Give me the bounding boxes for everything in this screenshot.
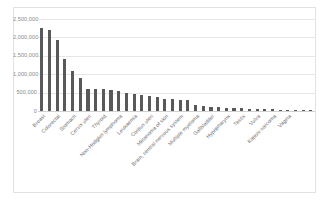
bar[interactable] — [40, 28, 43, 111]
bar[interactable] — [302, 110, 305, 111]
bar[interactable] — [263, 109, 266, 111]
bar[interactable] — [79, 78, 82, 111]
x-axis-tick-label: Testis — [232, 113, 246, 127]
bar[interactable] — [71, 71, 74, 111]
bar[interactable] — [140, 95, 143, 111]
bar[interactable] — [109, 90, 112, 111]
bar-slot — [192, 19, 200, 111]
bar-slot — [46, 19, 54, 111]
bar[interactable] — [125, 93, 128, 111]
bar[interactable] — [133, 94, 136, 111]
bar-slot — [169, 19, 177, 111]
bar[interactable] — [294, 110, 297, 111]
bar-slot — [269, 19, 277, 111]
bar-slot — [199, 19, 207, 111]
bar[interactable] — [163, 99, 166, 111]
x-axis-tick-label: Kaposi sarcoma — [246, 113, 277, 144]
bar-slot — [276, 19, 284, 111]
bar-slot — [238, 19, 246, 111]
bar-slot — [223, 19, 231, 111]
bar-slot — [246, 19, 254, 111]
bar[interactable] — [156, 97, 159, 111]
bar-slot — [123, 19, 131, 111]
x-axis-tick-label: Vagina — [277, 113, 293, 129]
plot-area — [38, 19, 315, 111]
bar[interactable] — [179, 100, 182, 111]
y-axis-tick-label: 500,000 — [13, 89, 37, 96]
chart-container: 2,500,0002,000,0001,500,0001,000,000500,… — [0, 0, 330, 203]
bar[interactable] — [86, 89, 89, 111]
bar-slot — [207, 19, 215, 111]
bar-slot — [292, 19, 300, 111]
bar[interactable] — [209, 107, 212, 111]
bar-slot — [53, 19, 61, 111]
bar[interactable] — [194, 105, 197, 111]
bar-slot — [38, 19, 46, 111]
bar[interactable] — [271, 109, 274, 111]
bar[interactable] — [309, 110, 312, 111]
y-axis-tick-label: 2,000,000 — [13, 34, 37, 41]
bar-slot — [284, 19, 292, 111]
bar-slot — [176, 19, 184, 111]
bar[interactable] — [186, 100, 189, 111]
bar-slot — [261, 19, 269, 111]
bar-slot — [307, 19, 315, 111]
bar-slot — [138, 19, 146, 111]
bar[interactable] — [102, 89, 105, 111]
bar[interactable] — [202, 106, 205, 111]
bar-slot — [84, 19, 92, 111]
x-axis-baseline — [38, 111, 315, 112]
y-axis: 2,500,0002,000,0001,500,0001,000,000500,… — [13, 13, 37, 117]
bar[interactable] — [217, 107, 220, 111]
bar[interactable] — [240, 108, 243, 111]
bar[interactable] — [148, 96, 151, 111]
bar[interactable] — [63, 59, 66, 111]
y-axis-tick-label: 2,500,000 — [13, 16, 37, 23]
bar-slot — [253, 19, 261, 111]
bar[interactable] — [117, 91, 120, 111]
bar-series — [38, 19, 315, 111]
bar-slot — [115, 19, 123, 111]
x-axis: BreastColorectalStomachCervix uteriThyro… — [38, 113, 315, 191]
bar-slot — [92, 19, 100, 111]
bar[interactable] — [171, 99, 174, 111]
bar-slot — [184, 19, 192, 111]
bar[interactable] — [248, 109, 251, 111]
bar-slot — [76, 19, 84, 111]
bar-slot — [69, 19, 77, 111]
y-axis-tick-label: 0 — [13, 108, 37, 115]
bar[interactable] — [56, 40, 59, 111]
bar-slot — [161, 19, 169, 111]
y-axis-tick-label: 1,500,000 — [13, 52, 37, 59]
bar-slot — [153, 19, 161, 111]
bar-slot — [61, 19, 69, 111]
bar[interactable] — [232, 108, 235, 111]
bar[interactable] — [286, 110, 289, 111]
bar[interactable] — [256, 109, 259, 111]
bar-slot — [107, 19, 115, 111]
bar-slot — [130, 19, 138, 111]
bar[interactable] — [94, 89, 97, 111]
bar-slot — [100, 19, 108, 111]
bar[interactable] — [48, 30, 51, 111]
bar[interactable] — [225, 108, 228, 111]
bar-slot — [230, 19, 238, 111]
bar-slot — [146, 19, 154, 111]
bar-slot — [215, 19, 223, 111]
bar[interactable] — [279, 110, 282, 111]
x-axis-tick-label: Vulva — [248, 113, 262, 127]
y-axis-tick-label: 1,000,000 — [13, 71, 37, 78]
bar-slot — [299, 19, 307, 111]
